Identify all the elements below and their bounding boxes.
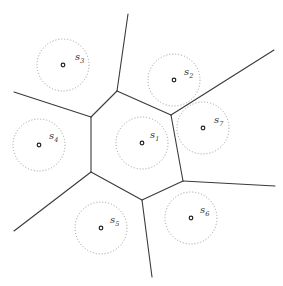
site-label: s4 bbox=[49, 130, 58, 144]
voronoi-ray bbox=[142, 200, 152, 277]
voronoi-svg: s1s2s3s4s5s6s7 bbox=[0, 0, 283, 286]
voronoi-edge bbox=[142, 181, 183, 200]
voronoi-edges bbox=[91, 91, 183, 200]
site-label: s3 bbox=[75, 51, 84, 65]
site-point-icon bbox=[99, 226, 103, 230]
voronoi-ray bbox=[14, 172, 91, 231]
voronoi-edge bbox=[91, 91, 117, 117]
site-circles bbox=[13, 39, 229, 254]
site-label: s1 bbox=[150, 129, 159, 143]
site-label: s6 bbox=[200, 204, 209, 218]
voronoi-diagram: s1s2s3s4s5s6s7 bbox=[0, 0, 283, 286]
voronoi-edge bbox=[91, 172, 142, 200]
voronoi-ray bbox=[171, 50, 274, 115]
site-point-icon bbox=[37, 143, 41, 147]
site-point-icon bbox=[189, 216, 193, 220]
voronoi-ray bbox=[117, 14, 128, 91]
voronoi-ray bbox=[14, 92, 91, 117]
site-label: s2 bbox=[184, 66, 193, 80]
site-labels: s1s2s3s4s5s6s7 bbox=[49, 51, 224, 228]
site-point-icon bbox=[201, 126, 205, 130]
voronoi-edge bbox=[117, 91, 171, 115]
site-label: s5 bbox=[110, 214, 119, 228]
site-label: s7 bbox=[214, 114, 224, 128]
site-point-icon bbox=[61, 63, 65, 67]
voronoi-rays bbox=[14, 14, 275, 277]
site-point-icon bbox=[140, 141, 144, 145]
site-point-icon bbox=[172, 78, 176, 82]
site-points bbox=[37, 63, 205, 230]
voronoi-ray bbox=[183, 181, 275, 186]
